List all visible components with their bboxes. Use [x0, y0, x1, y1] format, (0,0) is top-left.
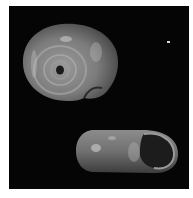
shell-apertural-view [76, 128, 179, 175]
dust-speck [167, 41, 170, 43]
photo-panel [9, 6, 189, 189]
shell-umbilical-view [22, 22, 120, 102]
